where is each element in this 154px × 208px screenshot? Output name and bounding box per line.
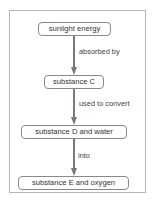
node-substance-d-and-water: substance D and water	[21, 125, 127, 139]
edge-label-used-to-convert: used to convert	[79, 99, 130, 108]
node-substance-c: substance C	[44, 75, 104, 89]
node-substance-e-and-oxygen: substance E and oxygen	[18, 176, 129, 190]
edge-label-absorbed-by: absorbed by	[79, 47, 120, 56]
node-sunlight-energy: sunlight energy	[38, 22, 111, 36]
edge-label-into: into	[78, 151, 90, 160]
